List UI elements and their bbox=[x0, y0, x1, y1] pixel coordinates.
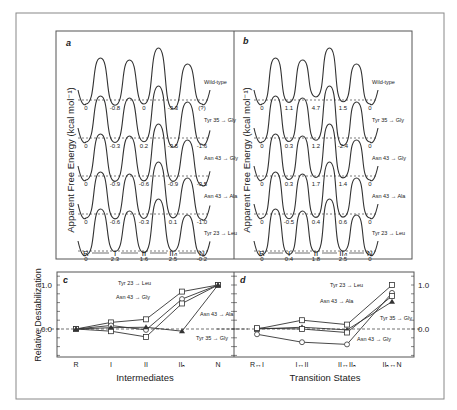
well-energy-value: -3.5 bbox=[197, 181, 208, 187]
panel-b: 01.14.71.50Wild-type00.31.2-2.40Tyr 35 →… bbox=[254, 48, 406, 262]
well-energy-value: 0 bbox=[84, 181, 88, 187]
well-energy-value: 0.4 bbox=[312, 219, 321, 225]
square-marker bbox=[300, 318, 305, 323]
well-energy-value: 1.1 bbox=[285, 105, 294, 111]
well-energy-value: -1.0 bbox=[197, 219, 208, 225]
well-energy-value: 0 bbox=[368, 143, 372, 149]
well-energy-value: 1.2 bbox=[312, 143, 321, 149]
well-energy-value: 0.1 bbox=[169, 219, 178, 225]
panel-c-xlabel: Intermediates bbox=[116, 372, 174, 383]
panel-a-label: a bbox=[66, 38, 71, 48]
series-line bbox=[76, 285, 218, 330]
x-category-label: R bbox=[73, 361, 78, 368]
triangle-marker bbox=[389, 299, 395, 304]
well-energy-value: 0 bbox=[260, 105, 264, 111]
series-label: Asn 43 → Ala bbox=[320, 298, 354, 304]
well-energy-value: 0.3 bbox=[285, 181, 294, 187]
state-label: II bbox=[142, 249, 146, 258]
panel-d-ytick-0: 0.0 bbox=[418, 325, 430, 334]
energy-curve bbox=[254, 199, 378, 256]
x-category-label: R↔I bbox=[250, 361, 264, 368]
well-energy-value: 1.4 bbox=[339, 181, 348, 187]
mutant-label: Wild-type bbox=[372, 79, 395, 85]
well-energy-value: -0.9 bbox=[110, 181, 121, 187]
well-energy-value: 0 bbox=[368, 219, 372, 225]
well-energy-value: 0.3 bbox=[285, 143, 294, 149]
mutant-label: Tyr 23 → Leu bbox=[204, 230, 237, 236]
panel-a-ylabel: Apparent Free Energy (kcal mol⁻¹) bbox=[65, 87, 76, 232]
state-label: I bbox=[114, 249, 116, 258]
triangle-marker bbox=[143, 324, 149, 329]
well-energy-value: -1.6 bbox=[197, 143, 208, 149]
mutant-label: Tyr 35 → Gly bbox=[204, 117, 236, 123]
square-marker bbox=[180, 289, 185, 294]
square-marker bbox=[390, 283, 395, 288]
panel-c-ytick-1: 1.0 bbox=[41, 281, 53, 290]
well-energy-value: 0 bbox=[260, 219, 264, 225]
panel-d-xlabel: Transition States bbox=[290, 372, 361, 383]
figure: 0-0.80-3.3(?)Wild-type0-0.30.2-3.5-1.6Ty… bbox=[0, 0, 457, 410]
state-label: II bbox=[314, 249, 318, 258]
mutant-label: Tyr 23 → Leu bbox=[372, 230, 405, 236]
well-energy-value: -0.3 bbox=[139, 219, 150, 225]
panel-b-label: b bbox=[243, 36, 249, 46]
circle-marker bbox=[255, 332, 260, 337]
state-label: IIₙ bbox=[339, 249, 346, 258]
well-energy-value: 4.7 bbox=[312, 105, 321, 111]
well-energy-value: -0.5 bbox=[284, 219, 295, 225]
series-line bbox=[257, 285, 392, 329]
square-marker bbox=[300, 327, 305, 332]
series-label: Tyr 35 → Gly bbox=[380, 315, 412, 321]
square-marker bbox=[144, 334, 149, 339]
state-label: I bbox=[288, 249, 290, 258]
well-energy-value: 1.7 bbox=[312, 181, 321, 187]
square-marker bbox=[345, 330, 350, 335]
well-energy-value: (?) bbox=[198, 105, 205, 111]
well-energy-value: -3.3 bbox=[168, 105, 179, 111]
well-energy-value: 0.2 bbox=[140, 143, 149, 149]
well-energy-value: 0 bbox=[260, 181, 264, 187]
state-label: R bbox=[259, 249, 265, 258]
square-marker bbox=[144, 317, 149, 322]
energy-curve bbox=[78, 199, 210, 256]
circle-marker bbox=[345, 342, 350, 347]
well-energy-value: 0 bbox=[84, 143, 88, 149]
series-line bbox=[76, 285, 218, 331]
x-category-label: I bbox=[110, 361, 112, 368]
panel-b-ylabel: Apparent Free Energy (kcal mol⁻¹) bbox=[241, 87, 252, 232]
well-energy-value: 0.6 bbox=[339, 219, 348, 225]
state-label: N bbox=[367, 249, 373, 258]
panel-d-label: d bbox=[240, 275, 246, 285]
panel-d-ytick-1: 1.0 bbox=[418, 281, 430, 290]
series-line bbox=[76, 285, 218, 329]
x-category-label: IIₙ↔N bbox=[383, 361, 402, 368]
energy-curve bbox=[78, 124, 210, 186]
mutant-label: Tyr 35 → Gly bbox=[372, 117, 404, 123]
series-label: Tyr 35 → Gly bbox=[196, 335, 228, 341]
series-label: Asn 43 → Ala bbox=[200, 311, 234, 317]
well-energy-value: -2.4 bbox=[338, 143, 349, 149]
energy-curve bbox=[254, 48, 378, 105]
well-energy-value: -0.9 bbox=[168, 181, 179, 187]
square-marker bbox=[255, 326, 260, 331]
well-energy-value: 0 bbox=[142, 105, 146, 111]
x-category-label: II bbox=[144, 361, 148, 368]
mutant-label: Asn 43 → Gly bbox=[204, 155, 238, 161]
well-energy-value: -0.6 bbox=[139, 181, 150, 187]
well-energy-value: 0 bbox=[368, 181, 372, 187]
well-energy-value: 0 bbox=[84, 105, 88, 111]
mutant-label: Asn 43 → Ala bbox=[204, 193, 238, 199]
well-energy-value: -0.8 bbox=[110, 105, 121, 111]
x-category-label: IIₙ bbox=[179, 361, 186, 368]
square-marker bbox=[345, 322, 350, 327]
panel-c-ytick-0: 0.0 bbox=[41, 325, 53, 334]
well-energy-value: -3.5 bbox=[168, 143, 179, 149]
circle-marker bbox=[300, 340, 305, 345]
series-label: Tyr 23 → Leu bbox=[330, 282, 363, 288]
series-label: Asn 43 → Gly bbox=[357, 336, 391, 342]
well-energy-value: 0 bbox=[260, 143, 264, 149]
well-energy-value: 1.5 bbox=[339, 105, 348, 111]
series-label: Asn 43 → Gly bbox=[116, 294, 150, 300]
panel-c-label: c bbox=[63, 275, 68, 285]
square-marker bbox=[390, 294, 395, 299]
